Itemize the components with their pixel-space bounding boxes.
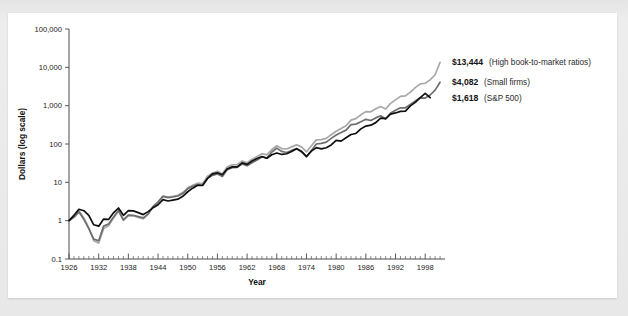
x-tick-label: 1974 <box>298 263 315 272</box>
y-tick-label: 100 <box>49 140 62 149</box>
figure-page: 100,00010,0001,0001001010.11926193219381… <box>0 0 628 316</box>
series-line-high-book-to-market-ratios <box>69 62 440 243</box>
x-axis-title: Year <box>248 277 266 287</box>
y-tick-label: 1 <box>58 216 62 225</box>
line-chart: 100,00010,0001,0001001010.11926193219381… <box>8 13 617 298</box>
x-tick-label: 1998 <box>417 263 434 272</box>
series-line-small-firms <box>69 82 440 240</box>
end-label-amount: $13,444 <box>452 57 483 67</box>
series-end-label-2: $4,082(Small firms) <box>452 77 530 87</box>
x-tick-label: 1986 <box>357 263 374 272</box>
x-tick-label: 1980 <box>328 263 345 272</box>
y-tick-label: 10 <box>54 178 62 187</box>
end-label-description: (Small firms) <box>484 78 530 87</box>
x-tick-label: 1944 <box>150 263 167 272</box>
end-label-description: (S&P 500) <box>484 94 522 103</box>
y-tick-label: 100,000 <box>35 25 62 34</box>
series-end-label-3: $1,618(S&P 500) <box>452 93 522 103</box>
x-tick-label: 1950 <box>179 263 196 272</box>
x-tick-label: 1962 <box>239 263 256 272</box>
series-line-s-p-500 <box>69 93 430 226</box>
x-tick-label: 1932 <box>90 263 107 272</box>
end-label-description: (High book-to-market ratios) <box>489 58 591 67</box>
end-label-amount: $1,618 <box>452 93 479 103</box>
x-tick-label: 1926 <box>61 263 78 272</box>
x-tick-label: 1992 <box>387 263 404 272</box>
x-tick-label: 1938 <box>120 263 137 272</box>
y-tick-label: 10,000 <box>39 63 62 72</box>
series-end-label-1: $13,444(High book-to-market ratios) <box>452 57 591 67</box>
chart-plot-area: 100,00010,0001,0001001010.11926193219381… <box>8 13 617 298</box>
x-tick-label: 1956 <box>209 263 226 272</box>
chart-card: 100,00010,0001,0001001010.11926193219381… <box>8 13 617 298</box>
y-axis-title: Dollars (log scale) <box>17 108 27 180</box>
x-tick-label: 1968 <box>268 263 285 272</box>
end-label-amount: $4,082 <box>452 77 479 87</box>
y-tick-label: 1,000 <box>43 101 62 110</box>
